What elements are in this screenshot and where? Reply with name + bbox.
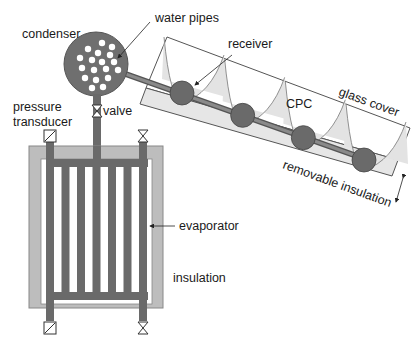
condenser [64,32,128,96]
water-pipe-hole [85,46,91,52]
pressure-transducer-top-icon [44,130,56,142]
water-pipe-hole [82,75,88,81]
receiver [291,126,315,150]
water-pipe-hole [99,59,105,65]
water-pipes-leader [118,22,150,58]
receiver [231,103,255,127]
water-pipe-hole [93,77,99,83]
water-pipe-hole [91,67,97,73]
valve-top-right-icon [138,130,148,142]
water-pipe-hole [95,50,101,56]
receiver [352,148,376,172]
water-pipes-label: water pipes [154,11,219,25]
water-pipe-hole [77,55,83,61]
water-pipe-hole [115,67,121,73]
water-pipe-hole [109,44,115,50]
diagram-canvas: condenser water pipes receiver CPC glass… [0,0,420,346]
evaporator [29,142,163,321]
evaporator-tube [93,165,101,293]
water-pipe-hole [107,52,113,58]
water-pipe-hole [89,85,95,91]
evaporator-label: evaporator [179,219,239,233]
valve-bottom-right-icon [138,322,148,334]
water-pipe-hole [89,57,95,63]
evaporator-tube [124,165,132,293]
evaporator-tube [77,165,85,293]
insulation-label: insulation [173,271,226,285]
water-pipe-hole [111,59,117,65]
evaporator-tube [108,165,116,293]
cpc-label: CPC [286,97,312,111]
water-pipe-hole [105,75,111,81]
evaporator-tube [62,165,70,293]
water-pipe-hole [103,66,109,72]
receiver [170,81,194,105]
pressure-label: pressure [13,100,62,114]
condenser-body [64,32,128,96]
water-pipe-hole [79,65,85,71]
receiver-label: receiver [228,37,272,51]
transducer-label: transducer [13,115,72,129]
condenser-label: condenser [22,27,80,41]
water-pipe-hole [99,40,105,46]
removable-insulation-arrow [396,178,403,202]
pressure-transducer-bottom-icon [44,322,56,334]
valve-label: valve [103,104,132,118]
water-pipe-hole [100,84,106,90]
